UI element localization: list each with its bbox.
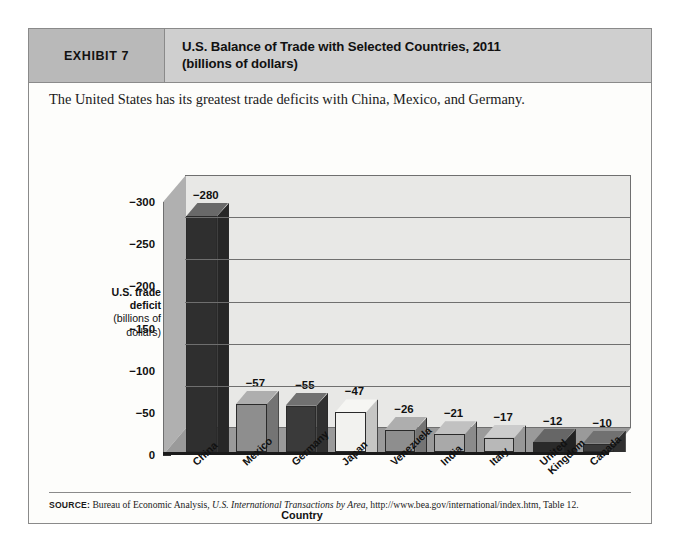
bar-value-label: −26	[389, 403, 420, 415]
y-tick-label: −50	[136, 407, 155, 419]
gridline	[185, 302, 631, 303]
gridline	[185, 344, 631, 345]
y-axis-tick-labels: 0−50−100−150−200−250−300	[69, 175, 161, 456]
bar-value-label: −21	[438, 407, 469, 419]
source-citation: SOURCE: Bureau of Economic Analysis, U.S…	[49, 499, 639, 511]
exhibit-title-line-1: U.S. Balance of Trade with Selected Coun…	[182, 39, 651, 56]
y-tick-label: −100	[129, 365, 155, 377]
exhibit-caption: The United States has its greatest trade…	[49, 91, 629, 108]
gridline	[185, 217, 631, 218]
gridline	[185, 386, 631, 387]
bar-front-face	[186, 216, 217, 452]
exhibit-frame: EXHIBIT 7 U.S. Balance of Trade with Sel…	[28, 28, 652, 524]
source-label: SOURCE:	[49, 500, 90, 510]
y-tick-label: −250	[129, 238, 155, 250]
exhibit-header: EXHIBIT 7 U.S. Balance of Trade with Sel…	[29, 29, 651, 83]
chart-plot-area: −280−57−55−47−26−21−17−12−10	[163, 175, 631, 455]
exhibit-title-line-2: (billions of dollars)	[182, 56, 651, 73]
y-tick-mark	[163, 455, 171, 456]
source-divider	[49, 492, 631, 493]
source-text-before: Bureau of Economic Analysis,	[90, 499, 212, 510]
gridline	[185, 259, 631, 260]
bar-value-label: −57	[240, 377, 271, 389]
source-publication: U.S. International Transactions by Area	[212, 499, 366, 510]
bar-value-label: −47	[339, 385, 370, 397]
bar-value-label: −12	[537, 415, 568, 427]
y-tick-label: −150	[129, 323, 155, 335]
chart-left-wall-border	[163, 202, 164, 455]
y-tick-label: −200	[129, 280, 155, 292]
bar: −280	[186, 216, 217, 452]
exhibit-title-band: U.S. Balance of Trade with Selected Coun…	[165, 29, 651, 82]
gridline	[185, 175, 631, 176]
bar-value-label: −280	[190, 189, 221, 201]
bar-value-label: −10	[587, 417, 618, 429]
y-tick-label: −300	[129, 196, 155, 208]
exhibit-tag-label: EXHIBIT 7	[64, 49, 129, 63]
bar-value-label: −17	[488, 411, 519, 423]
chart-left-wall	[163, 175, 186, 455]
source-text-after: , http://www.bea.gov/international/index…	[366, 499, 579, 510]
chart-region: U.S. trade deficit (billions of dollars)…	[29, 119, 651, 489]
bar-side-face	[217, 203, 229, 452]
exhibit-tag: EXHIBIT 7	[29, 29, 165, 82]
y-tick-label: 0	[149, 449, 155, 461]
bar-value-label: −55	[290, 379, 321, 391]
